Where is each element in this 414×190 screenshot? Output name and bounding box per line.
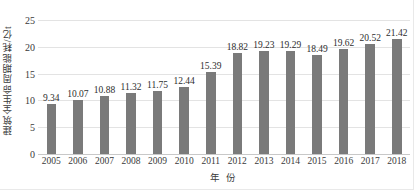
- bar-value-label: 18.49: [306, 44, 327, 54]
- bar: [73, 100, 83, 154]
- plot-area: 9.3410.0710.8811.3211.7512.4415.3918.821…: [38, 20, 410, 154]
- bar-slot: 19.23: [251, 20, 278, 154]
- bar-value-label: 21.42: [386, 28, 407, 38]
- y-axis-tick-label: 25: [25, 15, 35, 26]
- bar: [286, 51, 296, 154]
- bar-value-label: 11.32: [121, 82, 142, 92]
- bars-container: 9.3410.0710.8811.3211.7512.4415.3918.821…: [38, 20, 410, 154]
- bar-value-label: 19.62: [333, 38, 354, 48]
- bar-value-label: 15.39: [200, 61, 221, 71]
- bar-slot: 20.52: [357, 20, 384, 154]
- bar-value-label: 19.23: [253, 40, 274, 50]
- x-axis-tick-label: 2016: [330, 156, 357, 170]
- x-axis-tick-label: 2013: [251, 156, 278, 170]
- x-axis-tick-label: 2015: [304, 156, 331, 170]
- x-axis-tick-label: 2009: [144, 156, 171, 170]
- bar-slot: 12.44: [171, 20, 198, 154]
- bar-value-label: 10.07: [67, 89, 88, 99]
- bar-slot: 19.62: [330, 20, 357, 154]
- x-axis-tick-label: 2005: [38, 156, 65, 170]
- bar: [365, 44, 375, 154]
- bar: [100, 96, 110, 154]
- bar: [392, 39, 402, 154]
- x-axis-tick-label: 2011: [197, 156, 224, 170]
- bar: [153, 91, 163, 154]
- x-axis-tick-label: 2014: [277, 156, 304, 170]
- x-axis-tick-labels: 2005200620072008200920102011201220132014…: [38, 156, 410, 170]
- bar-slot: 19.29: [277, 20, 304, 154]
- bar-value-label: 12.44: [173, 76, 194, 86]
- x-axis-tick-label: 2012: [224, 156, 251, 170]
- bar: [312, 55, 322, 154]
- x-axis-title: 年 份: [38, 170, 410, 184]
- bar: [206, 72, 216, 154]
- y-axis-tick-label: 10: [25, 95, 35, 106]
- bar-slot: 10.07: [65, 20, 92, 154]
- bar: [47, 104, 57, 154]
- bar-slot: 18.82: [224, 20, 251, 154]
- bar-slot: 18.49: [304, 20, 331, 154]
- bar-slot: 11.75: [144, 20, 171, 154]
- bar-slot: 15.39: [197, 20, 224, 154]
- y-axis-tick-label: 20: [25, 41, 35, 52]
- y-axis-tick-label: 0: [30, 149, 35, 160]
- x-axis-tick-label: 2018: [384, 156, 411, 170]
- bar-slot: 10.88: [91, 20, 118, 154]
- x-axis-tick-label: 2008: [118, 156, 145, 170]
- bar: [126, 93, 136, 154]
- bar-slot: 9.34: [38, 20, 65, 154]
- x-axis-tick-label: 2010: [171, 156, 198, 170]
- x-axis-tick-label: 2007: [91, 156, 118, 170]
- y-axis-tick-label: 5: [30, 122, 35, 133]
- bar-chart: 建筑全生命周期能耗/亿t 0510152025 9.3410.0710.8811…: [0, 0, 414, 190]
- bar: [179, 87, 189, 154]
- x-axis-tick-label: 2017: [357, 156, 384, 170]
- y-axis-tick-label: 15: [25, 68, 35, 79]
- bar: [233, 53, 243, 154]
- bar-value-label: 11.75: [147, 80, 168, 90]
- y-axis-title: 建筑全生命周期能耗/亿t: [0, 0, 16, 160]
- x-axis-tick-label: 2006: [65, 156, 92, 170]
- bar-value-label: 20.52: [360, 33, 381, 43]
- bar-value-label: 19.29: [280, 40, 301, 50]
- y-axis-tick-labels: 0510152025: [16, 0, 38, 154]
- bar-slot: 11.32: [118, 20, 145, 154]
- bar-slot: 21.42: [384, 20, 411, 154]
- bar-value-label: 9.34: [43, 93, 60, 103]
- bar-value-label: 18.82: [227, 42, 248, 52]
- bar: [339, 49, 349, 154]
- bar: [259, 51, 269, 154]
- x-axis-line: [38, 154, 410, 155]
- bar-value-label: 10.88: [94, 85, 115, 95]
- y-axis-title-text: 建筑全生命周期能耗/亿t: [1, 26, 15, 135]
